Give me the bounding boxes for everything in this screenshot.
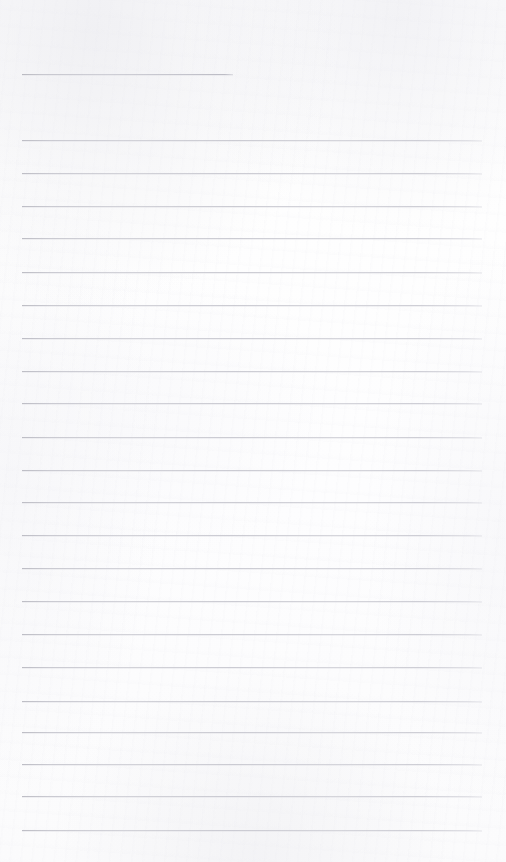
rule-line (22, 338, 482, 339)
rule-line (22, 732, 482, 733)
rule-line (22, 238, 482, 239)
rule-line (22, 403, 482, 404)
rule-line (22, 272, 482, 273)
rule-line (22, 535, 482, 536)
rule-line (22, 371, 482, 372)
rule-line (22, 796, 482, 797)
rule-line (22, 140, 482, 141)
rule-line (22, 701, 482, 702)
rule-line (22, 502, 482, 503)
rule-line (22, 634, 482, 635)
rule-line (22, 601, 482, 602)
rule-line (22, 568, 482, 569)
rule-line (22, 206, 482, 207)
rule-line (22, 437, 482, 438)
rule-line (22, 667, 482, 668)
rule-line (22, 173, 482, 174)
lined-paper-page (0, 0, 506, 862)
rule-line (22, 305, 482, 306)
rule-line (22, 470, 482, 471)
header-rule-line (22, 74, 233, 75)
rule-line (22, 764, 482, 765)
rule-line (22, 830, 482, 831)
